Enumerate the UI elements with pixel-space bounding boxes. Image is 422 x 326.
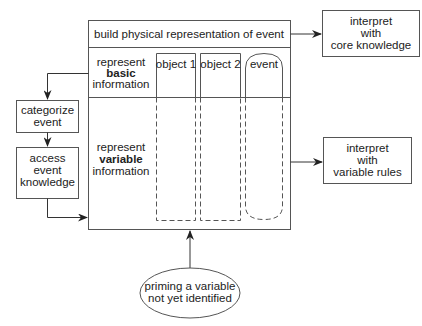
priming-line1: priming a variable [145, 280, 236, 292]
categorize-line2: event [33, 116, 62, 128]
interpret-core-knowledge-box: interpret with core knowledge [323, 11, 420, 57]
basic-row-line3: information [93, 78, 150, 90]
core-line3: core knowledge [331, 39, 412, 51]
core-line1: interpret [350, 15, 393, 27]
variable-rules-line2: with [356, 154, 377, 166]
variable-row-line1: represent [97, 141, 146, 153]
access-line2: event [33, 164, 62, 176]
column-label-object-2: object 2 [200, 58, 240, 70]
column-label-event: event [250, 58, 279, 70]
variable-row-line3: information [93, 165, 150, 177]
arrow-back-to-main [48, 199, 88, 218]
main-box-title: build physical representation of event [94, 28, 285, 40]
interpret-variable-rules-box: interpret with variable rules [324, 138, 412, 184]
arrow-to-categorize [48, 74, 89, 100]
access-line3: knowledge [20, 176, 75, 188]
column-label-object-1: object 1 [156, 58, 196, 70]
variable-rules-line3: variable rules [333, 166, 402, 178]
access-line1: access [30, 152, 66, 164]
column-object-2: object 2 [200, 54, 240, 221]
access-event-knowledge-box: access event knowledge [17, 148, 79, 199]
categorize-event-box: categorize event [17, 101, 79, 133]
column-event: event [246, 54, 283, 220]
event-representation-diagram: build physical representation of event r… [0, 0, 422, 326]
variable-rules-line1: interpret [346, 142, 389, 154]
priming-ellipse: priming a variable not yet identified [140, 268, 240, 318]
main-representation-box: build physical representation of event r… [89, 21, 291, 230]
core-line2: with [360, 27, 381, 39]
categorize-line1: categorize [21, 104, 74, 116]
column-object-1: object 1 [156, 54, 196, 221]
priming-line2: not yet identified [148, 292, 232, 304]
variable-row-line2: variable [99, 153, 142, 165]
